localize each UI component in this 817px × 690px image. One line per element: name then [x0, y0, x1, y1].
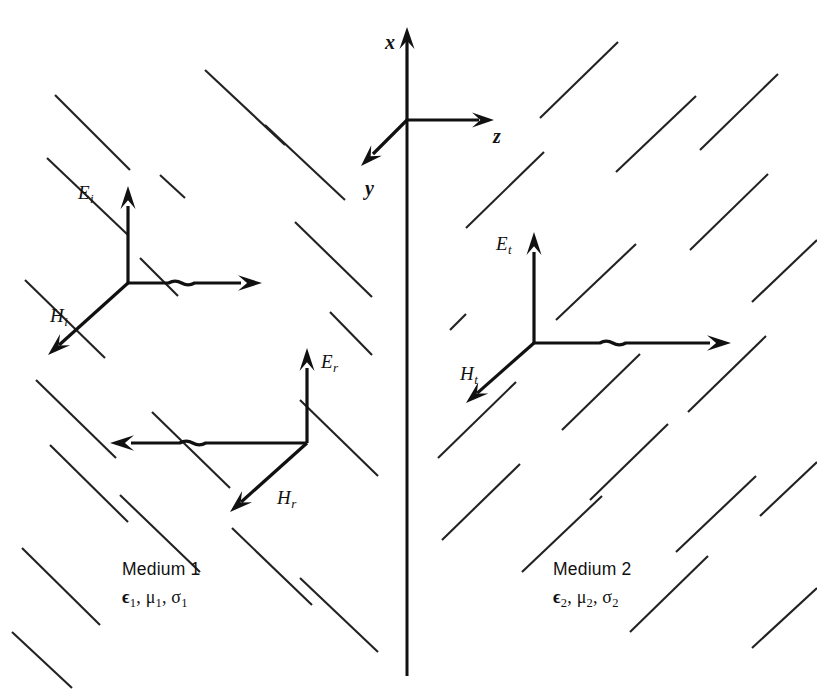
- sigma-subscript-1: 1: [181, 595, 187, 609]
- medium-2-caption: Medium 2 ϵ2, μ2, σ2: [553, 558, 631, 611]
- field-label-E-incident: Ei: [78, 183, 94, 205]
- axis-label-z: z: [493, 126, 501, 146]
- mu-symbol-1: μ: [146, 587, 156, 607]
- reflected-propagation-shaft: [131, 441, 307, 444]
- medium-1-caption: Medium 1 ϵ1, μ1, σ1: [122, 558, 200, 611]
- sigma-symbol-2: σ: [602, 587, 612, 607]
- sigma-subscript-2: 2: [612, 595, 618, 609]
- field-label-H-incident: Hi: [50, 306, 68, 328]
- medium-2-params: ϵ2, μ2, σ2: [553, 585, 631, 612]
- medium-1-params: ϵ1, μ1, σ1: [122, 585, 200, 612]
- epsilon-symbol-2: ϵ: [553, 587, 561, 607]
- medium-1-name: Medium 1: [122, 558, 200, 582]
- axis-label-y: y: [365, 178, 374, 198]
- sigma-symbol-1: σ: [171, 587, 181, 607]
- field-label-H-reflected: Hr: [277, 488, 296, 510]
- field-label-H-transmitted: Ht: [460, 364, 478, 386]
- field-label-E-reflected: Er: [321, 352, 338, 374]
- axis-label-x: x: [385, 32, 395, 52]
- medium-2-name: Medium 2: [553, 558, 631, 582]
- epsilon-symbol-1: ϵ: [122, 587, 130, 607]
- em-wave-interface-figure: x z y Ei Hi Er Hr Et Ht Medium 1 ϵ1, μ1,…: [0, 0, 817, 690]
- field-label-E-transmitted: Et: [496, 234, 512, 256]
- mu-symbol-2: μ: [577, 587, 587, 607]
